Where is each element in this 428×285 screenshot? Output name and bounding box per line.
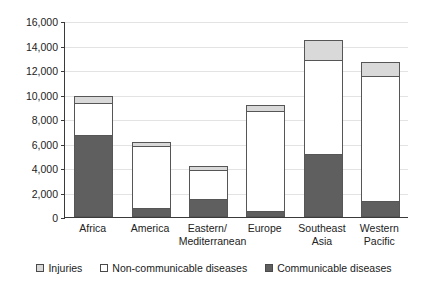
bar-segment-communicable[interactable] (304, 154, 343, 217)
bar-segment-non-communicable[interactable] (74, 103, 113, 136)
bar-segment-injuries[interactable] (361, 62, 400, 77)
x-axis-category-label: Europe (236, 222, 293, 235)
bar-segment-non-communicable[interactable] (361, 76, 400, 202)
bar-segment-non-communicable[interactable] (304, 60, 343, 155)
bar-segment-non-communicable[interactable] (189, 170, 228, 199)
bar-group[interactable] (304, 41, 343, 217)
bar-segment-injuries[interactable] (304, 40, 343, 61)
legend-swatch-icon (100, 264, 108, 272)
bar-group[interactable] (189, 167, 228, 217)
bar-segment-non-communicable[interactable] (246, 111, 285, 211)
y-axis-tick-label: 14,000 (26, 41, 58, 52)
y-axis-tick-label: 0 (52, 213, 58, 224)
y-axis-tick-label: 16,000 (26, 17, 58, 28)
stacked-bar-chart: 16,00014,00012,00010,0008,0006,0004,0002… (0, 0, 428, 285)
legend-item[interactable]: Injuries (36, 262, 82, 274)
x-axis-category-label: Western Pacific (351, 222, 408, 247)
x-axis-category-label: Africa (64, 222, 121, 235)
y-axis-tick-label: 2,000 (32, 188, 58, 199)
y-axis-tick-label: 6,000 (32, 139, 58, 150)
y-axis-tick-mark (61, 218, 65, 219)
x-axis-category-label: America (121, 222, 178, 235)
bar-segment-communicable[interactable] (132, 208, 171, 217)
x-axis-category-label: Eastern/ Mediterranean (179, 222, 236, 247)
x-axis-category-label: Southeast Asia (293, 222, 350, 247)
y-axis-tick-label: 8,000 (32, 115, 58, 126)
bar-group[interactable] (361, 63, 400, 217)
y-axis-tick-label: 10,000 (26, 90, 58, 101)
bar-segment-communicable[interactable] (246, 211, 285, 217)
bar-group[interactable] (246, 106, 285, 217)
bar-group[interactable] (74, 97, 113, 217)
legend-item[interactable]: Communicable diseases (265, 262, 391, 274)
bars-layer (65, 22, 408, 217)
legend-swatch-icon (36, 264, 44, 272)
bar-segment-communicable[interactable] (74, 135, 113, 217)
bar-group[interactable] (132, 143, 171, 217)
bar-segment-communicable[interactable] (189, 199, 228, 217)
plot-area (64, 22, 408, 218)
bar-segment-communicable[interactable] (361, 201, 400, 217)
chart-legend: InjuriesNon-communicable diseasesCommuni… (0, 262, 428, 274)
legend-swatch-icon (265, 264, 273, 272)
y-axis-tick-labels: 16,00014,00012,00010,0008,0006,0004,0002… (0, 22, 58, 218)
legend-label: Injuries (48, 262, 82, 274)
bar-segment-non-communicable[interactable] (132, 146, 171, 210)
y-axis-tick-label: 12,000 (26, 66, 58, 77)
legend-item[interactable]: Non-communicable diseases (100, 262, 247, 274)
legend-label: Non-communicable diseases (112, 262, 247, 274)
y-axis-tick-label: 4,000 (32, 164, 58, 175)
legend-label: Communicable diseases (277, 262, 391, 274)
x-axis-category-labels: AfricaAmericaEastern/ MediterraneanEurop… (64, 222, 408, 262)
